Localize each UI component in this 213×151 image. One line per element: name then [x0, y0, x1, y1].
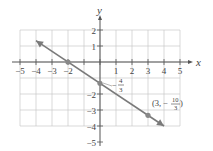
- y-tick-label: 1: [92, 42, 97, 52]
- y-tick-label: 2: [92, 26, 97, 36]
- point-label-numerator: 10: [172, 96, 179, 103]
- x-tick-label: −2: [63, 66, 73, 76]
- arrowhead-icon: [156, 119, 164, 126]
- point-label-close: ): [180, 98, 183, 108]
- x-tick-label: −5: [15, 66, 25, 76]
- x-tick-label: 5: [178, 66, 183, 76]
- data-point: [145, 113, 150, 118]
- y-axis-label: y: [96, 4, 102, 16]
- x-tick-label: 2: [130, 66, 135, 76]
- arrowhead-icon: [36, 41, 44, 48]
- yint-numerator: 4: [119, 77, 123, 85]
- point-annotation: (3, − 10 3 ): [152, 96, 183, 111]
- x-tick-label: −4: [31, 66, 41, 76]
- x-tick-label: 1: [114, 66, 119, 76]
- data-point: [65, 59, 70, 64]
- x-axis-label: x: [195, 56, 201, 68]
- chart-area: −5−4−3−21234521−2−3−4−5 x y − 4 3 (3, − …: [0, 0, 213, 151]
- x-tick-label: 3: [146, 66, 151, 76]
- yint-denominator: 3: [119, 86, 123, 94]
- y-tick-label: −3: [86, 106, 96, 116]
- x-tick-label: 4: [162, 66, 167, 76]
- point-label-denominator: 3: [174, 104, 177, 111]
- data-point: [97, 81, 102, 86]
- yint-sign: −: [112, 81, 117, 90]
- y-tick-label: −2: [86, 90, 96, 100]
- point-label-open: (3, −: [152, 98, 168, 108]
- chart-svg: −5−4−3−21234521−2−3−4−5 x y − 4 3 (3, − …: [0, 0, 213, 151]
- y-tick-label: −5: [86, 138, 96, 148]
- x-tick-label: −3: [47, 66, 57, 76]
- y-tick-label: −4: [86, 122, 96, 132]
